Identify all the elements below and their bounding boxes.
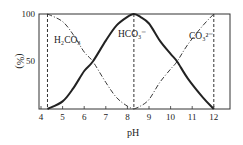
x-axis-ticks: 456789101112 [39,106,219,122]
species-distribution-chart: 456789101112 100 50 (%) pH H₂CO₃ HCO₃⁻ C… [0,0,243,145]
x-axis-title: pH [127,127,139,138]
x-tick-label: 5 [60,112,65,122]
x-tick-label: 8 [125,112,130,122]
x-tick-label: 7 [104,112,109,122]
label-co3: CO₃²⁻ [189,31,213,41]
x-tick-label: 4 [39,112,44,122]
x-tick-label: 10 [166,112,176,122]
label-hco3: HCO₃⁻ [118,29,146,39]
y-tick-100: 100 [22,9,36,19]
x-tick-label: 6 [82,112,87,122]
x-tick-label: 11 [188,112,197,122]
label-h2co3: H₂CO₃ [54,35,81,45]
y-tick-50: 50 [26,56,36,66]
y-axis-title: (%) [14,54,26,69]
x-tick-label: 9 [147,112,152,122]
x-tick-label: 12 [209,112,218,122]
